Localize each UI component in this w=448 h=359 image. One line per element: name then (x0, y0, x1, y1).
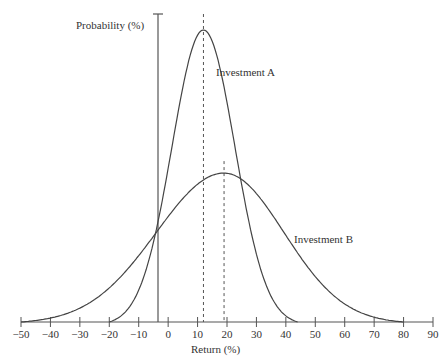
y-axis-label: Probability (%) (76, 19, 144, 31)
x-tick-label: −30 (71, 328, 88, 340)
x-tick-label: 50 (310, 328, 321, 340)
x-tick-label: −10 (130, 328, 147, 340)
x-tick-label: 60 (339, 328, 350, 340)
series-label-investment-b: Investment B (294, 233, 353, 245)
curve-investment-b (21, 173, 404, 322)
x-tick-label: 10 (192, 328, 203, 340)
series-label-investment-a: Investment A (216, 66, 275, 78)
x-tick-label: −20 (101, 328, 118, 340)
distribution-chart (0, 0, 448, 359)
x-tick-label: −50 (12, 328, 29, 340)
x-axis (21, 317, 433, 327)
x-tick-label: 0 (165, 328, 171, 340)
x-axis-label: Return (%) (191, 343, 240, 355)
x-tick-label: 30 (251, 328, 262, 340)
x-tick-label: −40 (42, 328, 59, 340)
x-tick-label: 90 (428, 328, 439, 340)
x-tick-label: 20 (222, 328, 233, 340)
x-tick-label: 80 (398, 328, 409, 340)
x-tick-label: 40 (280, 328, 291, 340)
x-tick-label: 70 (369, 328, 380, 340)
